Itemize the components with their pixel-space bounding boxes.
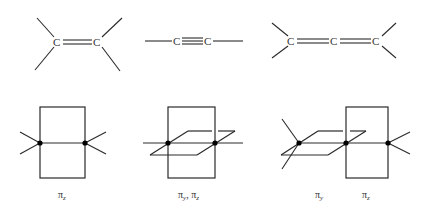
ethylene-structure: C C: [35, 18, 122, 71]
atom-dot: [343, 140, 348, 145]
acetylene-pi-plane-diagram: πy, πz: [143, 107, 243, 202]
atom-dot: [212, 140, 217, 145]
carbon-atom-label: C: [173, 35, 180, 47]
pi-z-label: πz: [362, 189, 370, 202]
pi-z-label: πz: [58, 189, 66, 202]
carbon-atom-label: C: [93, 36, 100, 48]
acetylene-structure: C C: [145, 35, 243, 47]
carbon-atom-label: C: [287, 35, 294, 47]
allene-pi-plane-diagram: πy πz: [281, 107, 410, 202]
atom-dot: [37, 140, 42, 145]
atom-dot: [385, 140, 390, 145]
ethylene-pi-plane-diagram: πz: [20, 107, 106, 202]
allene-structure: C C C: [272, 23, 396, 58]
pi-y-pi-z-label: πy, πz: [178, 189, 199, 202]
atom-dot: [82, 140, 87, 145]
atom-dot: [165, 140, 170, 145]
carbon-atom-label: C: [330, 35, 337, 47]
pi-y-label: πy: [315, 189, 324, 202]
orbital-diagram: C C C C C C C: [0, 0, 424, 213]
carbon-atom-label: C: [204, 35, 211, 47]
carbon-atom-label: C: [53, 36, 60, 48]
atom-dot: [296, 140, 301, 145]
carbon-atom-label: C: [372, 35, 379, 47]
